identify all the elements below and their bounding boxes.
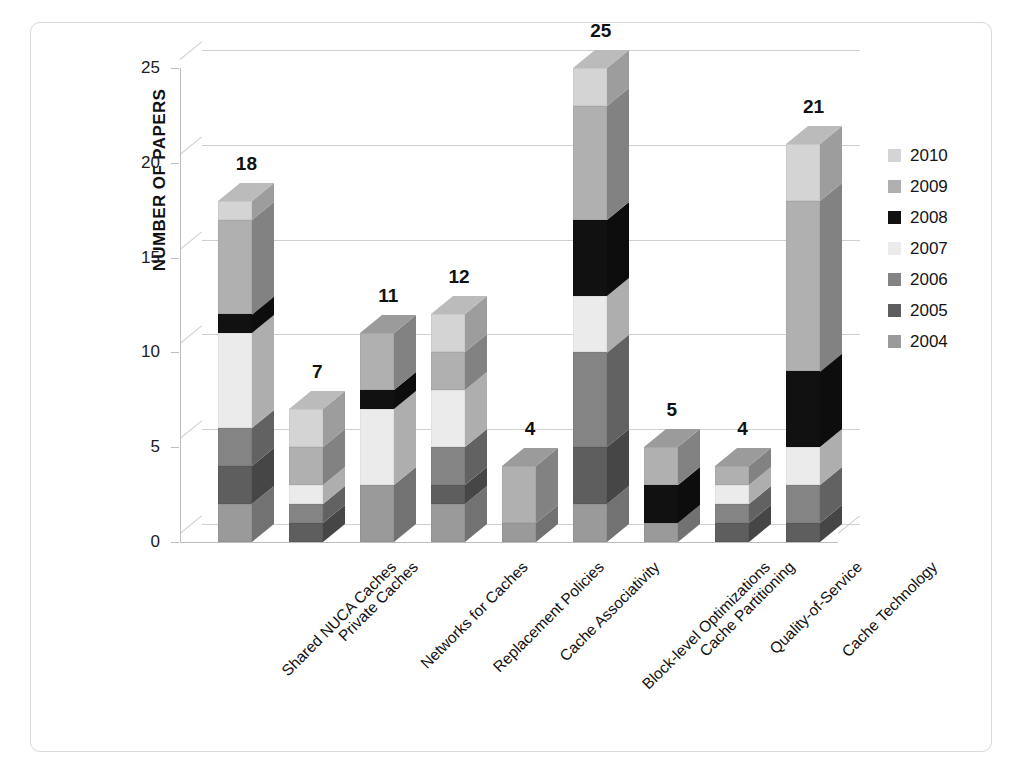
bar-value-label-9: 21 xyxy=(784,96,844,118)
bar-segment-quality-of-service-2007[interactable] xyxy=(715,485,749,504)
bar-9[interactable] xyxy=(786,68,820,542)
bar-segment-shared-nuca-caches-2010[interactable] xyxy=(218,201,252,220)
bar-segment-cache-technology-2009[interactable] xyxy=(786,201,820,372)
legend-item-2007[interactable]: 2007 xyxy=(888,233,998,264)
bar-segment-networks-for-caches-2004[interactable] xyxy=(360,485,394,542)
gridline-connector-15 xyxy=(180,231,203,250)
bar-value-label-8: 4 xyxy=(713,418,773,440)
bar-segment-quality-of-service-2006[interactable] xyxy=(715,504,749,523)
bar-value-label-3: 11 xyxy=(358,285,418,307)
bar-segment-private-caches-2005[interactable] xyxy=(289,523,323,542)
legend-item-2008[interactable]: 2008 xyxy=(888,202,998,233)
legend-swatch-icon-2009 xyxy=(888,180,901,193)
legend-swatch-icon-2010 xyxy=(888,149,901,162)
bar-segment-side-face xyxy=(607,88,629,220)
x-axis-line xyxy=(180,542,838,543)
gridline-connector-20 xyxy=(180,136,203,155)
y-tick-mark-10 xyxy=(171,352,179,353)
gridline-connector-10 xyxy=(180,326,203,345)
bar-2[interactable] xyxy=(289,68,323,542)
bar-segment-shared-nuca-caches-2009[interactable] xyxy=(218,220,252,315)
bar-segment-quality-of-service-2009[interactable] xyxy=(715,466,749,485)
bar-segment-side-face xyxy=(252,202,274,315)
bar-segment-side-face xyxy=(252,315,274,428)
bar-segment-replacement-policies-2006[interactable] xyxy=(431,447,465,485)
y-tick-label-0: 0 xyxy=(120,532,160,552)
y-tick-label-20: 20 xyxy=(120,153,160,173)
bar-segment-cache-partitioning-2004[interactable] xyxy=(644,523,678,542)
gridline-connector-0 xyxy=(180,515,203,534)
bar-segment-cache-technology-2010[interactable] xyxy=(786,144,820,201)
bar-segment-networks-for-caches-2008[interactable] xyxy=(360,390,394,409)
legend-label-2008: 2008 xyxy=(910,208,948,228)
bar-8[interactable] xyxy=(715,68,749,542)
bar-segment-private-caches-2006[interactable] xyxy=(289,504,323,523)
gridline-25 xyxy=(202,50,860,51)
gridline-connector-5 xyxy=(180,420,203,439)
bar-segment-shared-nuca-caches-2005[interactable] xyxy=(218,466,252,504)
legend-item-2004[interactable]: 2004 xyxy=(888,326,998,357)
bar-segment-cache-associativity-2004[interactable] xyxy=(502,523,536,542)
legend-label-2005: 2005 xyxy=(910,301,948,321)
bar-segment-block-level-optimizations-2006[interactable] xyxy=(573,352,607,447)
bar-segment-cache-technology-2005[interactable] xyxy=(786,523,820,542)
legend-swatch-icon-2007 xyxy=(888,242,901,255)
bar-segment-side-face xyxy=(607,334,629,447)
bar-segment-private-caches-2007[interactable] xyxy=(289,485,323,504)
legend-item-2006[interactable]: 2006 xyxy=(888,264,998,295)
bar-segment-shared-nuca-caches-2004[interactable] xyxy=(218,504,252,542)
bar-segment-networks-for-caches-2007[interactable] xyxy=(360,409,394,485)
bar-value-label-4: 12 xyxy=(429,266,489,288)
legend-label-2007: 2007 xyxy=(910,239,948,259)
bar-segment-block-level-optimizations-2004[interactable] xyxy=(573,504,607,542)
y-tick-mark-0 xyxy=(171,542,179,543)
bar-segment-block-level-optimizations-2005[interactable] xyxy=(573,447,607,504)
legend-label-2004: 2004 xyxy=(910,332,948,352)
y-tick-mark-15 xyxy=(171,258,179,259)
bar-segment-cache-technology-2008[interactable] xyxy=(786,371,820,447)
bar-1[interactable] xyxy=(218,68,252,542)
bar-6[interactable] xyxy=(573,68,607,542)
bar-5[interactable] xyxy=(502,68,536,542)
legend-item-2010[interactable]: 2010 xyxy=(888,140,998,171)
legend-label-2006: 2006 xyxy=(910,270,948,290)
bar-segment-quality-of-service-2005[interactable] xyxy=(715,523,749,542)
bar-segment-replacement-policies-2007[interactable] xyxy=(431,390,465,447)
bar-segment-block-level-optimizations-2010[interactable] xyxy=(573,68,607,106)
bar-segment-block-level-optimizations-2007[interactable] xyxy=(573,296,607,353)
legend-label-2009: 2009 xyxy=(910,177,948,197)
bar-4[interactable] xyxy=(431,68,465,542)
bar-segment-replacement-policies-2004[interactable] xyxy=(431,504,465,542)
legend-label-2010: 2010 xyxy=(910,146,948,166)
bar-value-label-7: 5 xyxy=(642,399,702,421)
legend-swatch-icon-2008 xyxy=(888,211,901,224)
bar-segment-block-level-optimizations-2009[interactable] xyxy=(573,106,607,220)
bar-segment-cache-technology-2007[interactable] xyxy=(786,447,820,485)
bar-segment-shared-nuca-caches-2008[interactable] xyxy=(218,314,252,333)
bar-value-label-1: 18 xyxy=(216,153,276,175)
bar-segment-cache-partitioning-2009[interactable] xyxy=(644,447,678,485)
bar-segment-side-face xyxy=(820,183,842,372)
plot-area: 051015202518Shared NUCA Caches7Private C… xyxy=(180,68,860,542)
bar-segment-cache-partitioning-2008[interactable] xyxy=(644,485,678,523)
bar-segment-private-caches-2010[interactable] xyxy=(289,409,323,447)
bar-segment-cache-associativity-2009[interactable] xyxy=(502,466,536,523)
bar-segment-replacement-policies-2009[interactable] xyxy=(431,352,465,390)
bar-segment-private-caches-2009[interactable] xyxy=(289,447,323,485)
bar-segment-networks-for-caches-2009[interactable] xyxy=(360,333,394,390)
y-axis-line xyxy=(180,68,181,542)
legend-item-2009[interactable]: 2009 xyxy=(888,171,998,202)
y-tick-mark-25 xyxy=(171,68,179,69)
legend-item-2005[interactable]: 2005 xyxy=(888,295,998,326)
bar-segment-block-level-optimizations-2008[interactable] xyxy=(573,220,607,296)
bar-segment-cache-technology-2006[interactable] xyxy=(786,485,820,523)
bar-segment-replacement-policies-2010[interactable] xyxy=(431,314,465,352)
bar-7[interactable] xyxy=(644,68,678,542)
bar-segment-shared-nuca-caches-2007[interactable] xyxy=(218,333,252,428)
y-tick-label-15: 15 xyxy=(120,248,160,268)
bar-segment-shared-nuca-caches-2006[interactable] xyxy=(218,428,252,466)
bar-value-label-5: 4 xyxy=(500,418,560,440)
legend-swatch-icon-2006 xyxy=(888,273,901,286)
y-tick-label-25: 25 xyxy=(120,58,160,78)
bar-segment-replacement-policies-2005[interactable] xyxy=(431,485,465,504)
